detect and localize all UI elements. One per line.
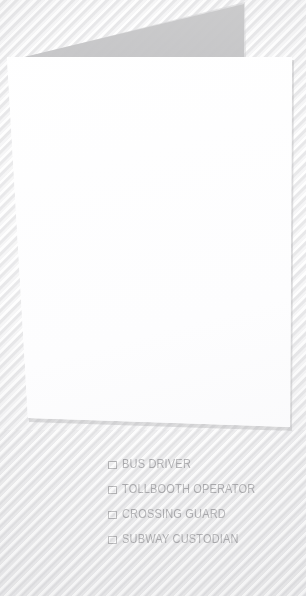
form-card-scene: BUS DRIVER TOLLBOOTH OPERATOR CROSSING G… [0,0,306,596]
checkbox-empty-icon[interactable] [108,536,117,544]
option-label-bus-driver: BUS DRIVER [122,458,191,471]
checkbox-empty-icon[interactable] [108,461,117,469]
options-list: BUS DRIVER TOLLBOOTH OPERATOR CROSSING G… [108,452,298,552]
option-label-crossing-guard: CROSSING GUARD [122,508,226,521]
option-row-crossing-guard[interactable]: CROSSING GUARD [108,502,298,527]
option-row-subway-custodian[interactable]: SUBWAY CUSTODIAN [108,527,298,552]
option-row-bus-driver[interactable]: BUS DRIVER [108,452,298,477]
option-label-subway-custodian: SUBWAY CUSTODIAN [122,533,239,546]
option-label-tollbooth-operator: TOLLBOOTH OPERATOR [122,483,255,496]
checkbox-empty-icon[interactable] [108,511,117,519]
checkbox-empty-icon[interactable] [108,486,117,494]
option-row-tollbooth-operator[interactable]: TOLLBOOTH OPERATOR [108,477,298,502]
